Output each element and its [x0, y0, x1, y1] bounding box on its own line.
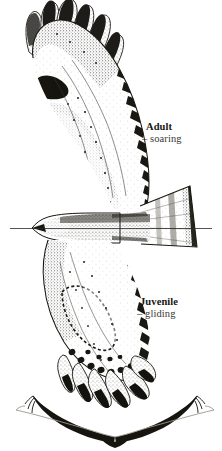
label-juvenile-title: Juvenile — [140, 296, 178, 307]
label-juvenile-subtitle: – gliding — [137, 308, 178, 319]
label-adult-title: Adult — [146, 121, 182, 132]
raptor-plate-artwork — [0, 0, 222, 451]
label-adult-subtitle: – soaring — [142, 133, 182, 144]
label-juvenile: Juvenile – gliding — [140, 296, 178, 319]
illustration-plate: Adult – soaring Juvenile – gliding — [0, 0, 222, 451]
label-adult: Adult – soaring — [146, 121, 182, 144]
